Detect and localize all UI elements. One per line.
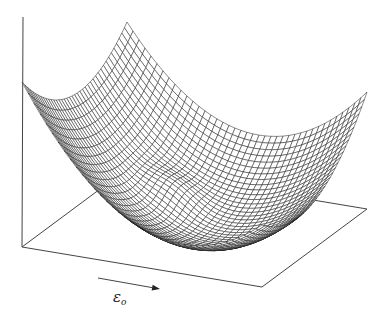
arrow-icon <box>98 278 152 288</box>
surface-plot-figure: εo <box>0 0 392 321</box>
wireframe-surface <box>22 22 367 251</box>
epsilon-axis-indicator: εo <box>98 278 160 307</box>
floor-front-edge <box>22 247 262 287</box>
vertical-axis <box>22 17 23 247</box>
arrowhead-icon <box>152 285 160 291</box>
epsilon-label: εo <box>113 288 127 307</box>
